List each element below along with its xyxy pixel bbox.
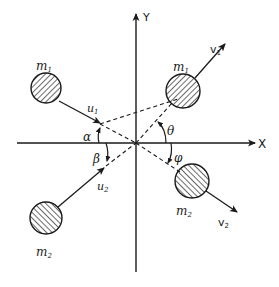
body-m2-after: m2 v2 φ	[168, 143, 237, 230]
angle-beta-arc	[106, 143, 108, 161]
mass-m2-before-circle	[30, 202, 62, 234]
mass-m2-after-circle	[175, 164, 209, 198]
mass-m2-before-label: m2	[36, 245, 52, 260]
mass-m2-after-label: m2	[176, 204, 192, 219]
angle-theta-arc	[158, 122, 166, 143]
x-axis-label: X	[258, 137, 266, 151]
velocity-v2-arrow	[206, 191, 237, 212]
y-axis-label: Y	[142, 11, 150, 24]
angle-phi-arc	[168, 143, 172, 163]
angle-beta-label: β	[92, 152, 100, 166]
angle-alpha-arc	[98, 128, 100, 143]
mass-m1-after-circle	[166, 74, 200, 108]
angle-alpha-label: α	[83, 130, 91, 144]
velocity-v1-label: v1	[210, 43, 221, 57]
body-m1-before: m1 u1 α	[31, 59, 100, 144]
mass-m1-before-circle	[31, 73, 61, 103]
angle-theta-label: θ	[167, 124, 175, 138]
collision-diagram: X Y m1 u1 α m2 u2 β m1 v1 θ m2	[0, 0, 279, 287]
body-m2-before: m2 u2 β	[30, 143, 109, 260]
velocity-v2-label: v2	[218, 216, 229, 230]
body-m1-after: m1 v1 θ	[158, 43, 225, 143]
velocity-u1-label: u1	[87, 102, 99, 116]
mass-m1-before-label: m1	[36, 59, 52, 74]
velocity-u2-label: u2	[97, 180, 109, 194]
mass-m1-after-label: m1	[173, 60, 189, 75]
angle-phi-label: φ	[174, 151, 183, 165]
